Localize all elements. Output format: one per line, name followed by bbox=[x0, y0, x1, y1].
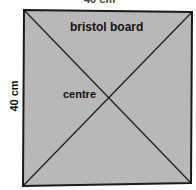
centre-label: centre bbox=[63, 88, 96, 100]
side-dimension-label: 40 cm bbox=[8, 76, 20, 116]
board-label: bristol board bbox=[70, 20, 143, 34]
